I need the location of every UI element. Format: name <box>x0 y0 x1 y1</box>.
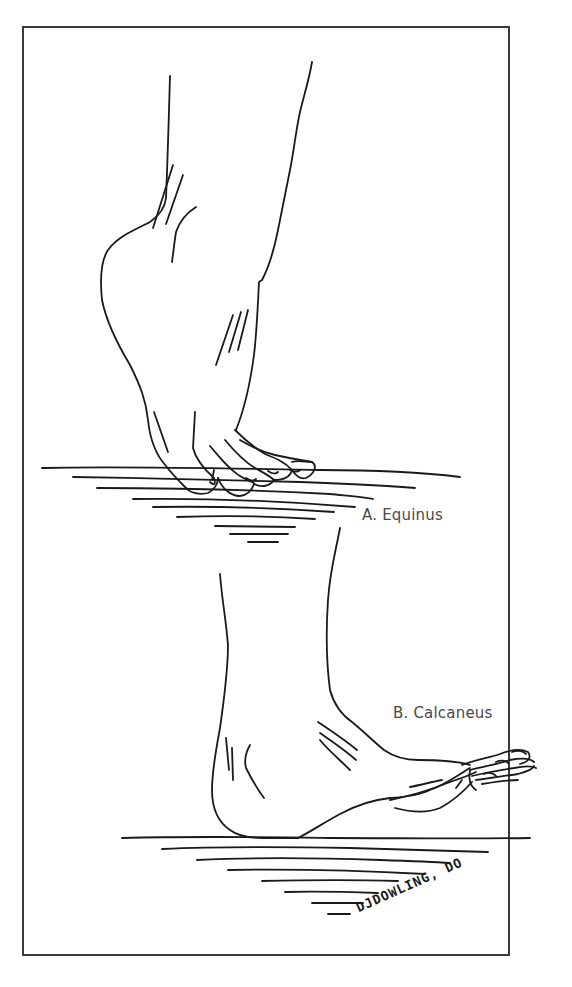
label-calcaneus: B. Calcaneus <box>393 704 493 722</box>
foot-illustration <box>0 0 572 987</box>
foot-equinus-drawing <box>42 62 460 542</box>
label-equinus: A. Equinus <box>362 506 443 524</box>
